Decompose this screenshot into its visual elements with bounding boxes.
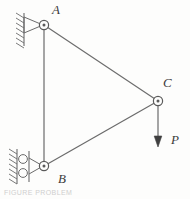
support-b-hatch-3 xyxy=(9,159,17,164)
joint-a-pin xyxy=(39,20,48,29)
load-arrow-head xyxy=(154,136,162,147)
support-a-hatch-3 xyxy=(16,23,24,28)
support-a-hatch-5 xyxy=(16,33,24,38)
truss-figure: A B C P FIGURE PROBLEM xyxy=(0,0,190,199)
support-a-hatch-7 xyxy=(16,43,24,48)
support-a-hatch-6 xyxy=(16,38,24,43)
support-b-roller-upper xyxy=(19,155,28,164)
support-b-hatch-1 xyxy=(9,149,17,154)
joint-label-b: B xyxy=(58,172,66,185)
support-a-wall-group xyxy=(16,13,24,48)
support-a-hatch-2 xyxy=(16,18,24,23)
support-b-hatch-4 xyxy=(9,164,17,169)
joint-label-c: C xyxy=(163,76,172,89)
joint-c-pin xyxy=(153,96,162,105)
support-b-roller-lower xyxy=(19,169,28,178)
member-bc xyxy=(44,101,158,166)
support-b-hatch-5 xyxy=(9,169,17,174)
figure-caption: FIGURE PROBLEM xyxy=(4,189,72,196)
joint-label-a: A xyxy=(52,3,60,16)
member-ac xyxy=(44,25,158,101)
support-b-wall-group xyxy=(9,149,17,184)
truss-diagram-svg xyxy=(0,0,190,199)
load-label-p: P xyxy=(171,133,179,146)
support-b-hatch-6 xyxy=(9,174,17,179)
support-a-hatch-4 xyxy=(16,28,24,33)
support-b-hatch-2 xyxy=(9,154,17,159)
support-a-hatch-1 xyxy=(16,13,24,18)
joint-b-pin xyxy=(39,161,48,170)
support-b-hatch-7 xyxy=(9,179,17,184)
